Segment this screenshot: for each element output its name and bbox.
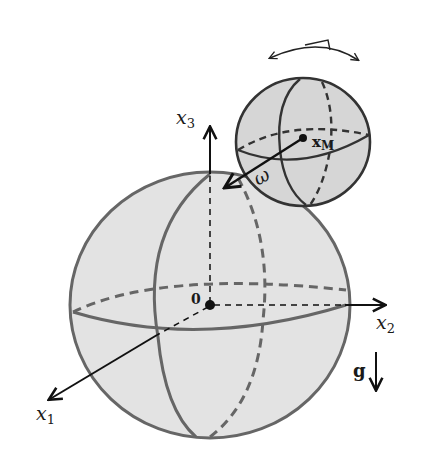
x2-label: x2 — [376, 311, 395, 336]
x3-label: x3 — [176, 106, 195, 131]
xm-point — [299, 134, 307, 142]
origin-point — [205, 300, 215, 310]
diagram-canvas: x3 x2 x1 0 ω xM g — [0, 0, 424, 460]
x1-label: x1 — [36, 402, 55, 427]
rotation-arrow-icon — [270, 40, 358, 60]
origin-label: 0 — [191, 291, 201, 307]
gravity-label: g — [353, 360, 366, 381]
